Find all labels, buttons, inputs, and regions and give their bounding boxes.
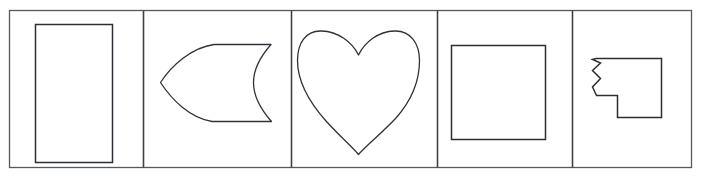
rectangle-shape [36, 25, 113, 163]
figure-root [0, 0, 702, 177]
square-shape [452, 46, 546, 140]
shape-canvas [0, 0, 702, 177]
square-panel [452, 46, 546, 140]
rectangle-panel [36, 25, 113, 163]
